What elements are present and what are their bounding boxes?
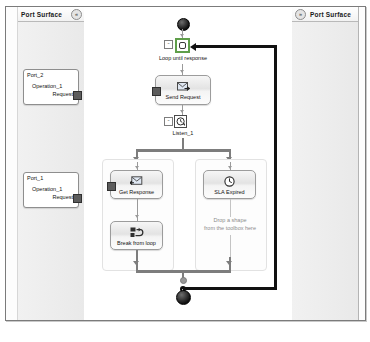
left-port-surface-title: Port Surface bbox=[21, 11, 62, 18]
port-name: Port_1 bbox=[27, 175, 75, 182]
port-operation: Operation_1 bbox=[27, 83, 75, 90]
branch-split-bar bbox=[136, 149, 231, 152]
placeholder-line-2: from the toolbox here bbox=[190, 224, 270, 232]
loop-expander-toggle[interactable]: - bbox=[164, 40, 173, 49]
start-terminator-icon bbox=[177, 18, 190, 31]
connector-arrow-icon bbox=[135, 166, 139, 169]
port-connector-handle[interactable] bbox=[73, 194, 82, 203]
port-message: Request bbox=[27, 91, 75, 98]
activity-label: Send Request bbox=[166, 93, 201, 101]
connector-arrow-icon bbox=[180, 70, 184, 73]
break-loop-icon bbox=[130, 226, 144, 239]
activity-connector-handle[interactable] bbox=[107, 182, 116, 191]
activity-break-from-loop[interactable]: Break from loop bbox=[110, 221, 163, 250]
right-port-surface-body[interactable] bbox=[292, 22, 358, 320]
receive-message-icon bbox=[130, 175, 143, 188]
listen-shape[interactable] bbox=[174, 115, 187, 128]
connector-sla-to-placeholder bbox=[230, 199, 231, 217]
workflow-canvas[interactable]: - Loop until response Send Request - bbox=[84, 7, 292, 320]
loopback-line-top bbox=[196, 45, 277, 48]
loop-icon bbox=[179, 42, 186, 49]
activity-sla-expired[interactable]: SLA Expired bbox=[203, 170, 256, 199]
connector-arrow-icon bbox=[226, 261, 232, 265]
right-port-surface-header: » Port Surface bbox=[292, 7, 358, 22]
loopback-line-bottom bbox=[183, 287, 277, 290]
drop-shape-placeholder[interactable]: Drop a shape from the toolbox here bbox=[190, 216, 270, 232]
placeholder-line-1: Drop a shape bbox=[190, 216, 270, 224]
left-port-surface-header: Port Surface « bbox=[18, 7, 85, 22]
listen-clock-icon bbox=[176, 117, 186, 127]
chevron-double-right-icon[interactable]: » bbox=[295, 9, 306, 20]
clock-icon bbox=[224, 175, 235, 188]
loopback-arrow-icon bbox=[190, 43, 196, 51]
loop-shape[interactable] bbox=[175, 38, 190, 53]
activity-send-request[interactable]: Send Request bbox=[155, 75, 211, 105]
connector-arrow-icon bbox=[180, 110, 184, 113]
activity-label: Get Response bbox=[119, 188, 154, 196]
listen-expander-toggle[interactable]: - bbox=[164, 117, 173, 126]
port-name: Port_2 bbox=[27, 72, 75, 79]
connector-arrow-icon bbox=[228, 166, 232, 169]
activity-connector-handle[interactable] bbox=[152, 87, 161, 96]
chevron-double-left-icon[interactable]: « bbox=[71, 9, 82, 20]
loop-shape-label: Loop until response bbox=[142, 55, 224, 62]
port-shape-port-2[interactable]: Port_2 Operation_1 Request bbox=[23, 69, 79, 105]
send-message-icon bbox=[177, 80, 190, 93]
activity-get-response[interactable]: Get Response bbox=[110, 170, 163, 199]
left-port-surface-body[interactable]: Port_2 Operation_1 Request Port_1 Operat… bbox=[18, 22, 85, 320]
connector-arrow-icon bbox=[180, 34, 184, 37]
port-shape-port-1[interactable]: Port_1 Operation_1 Request bbox=[23, 172, 79, 208]
right-port-surface-title: Port Surface bbox=[310, 11, 351, 18]
connector-arrow-icon bbox=[135, 215, 139, 218]
activity-label: SLA Expired bbox=[214, 188, 244, 196]
connector-midpoint-handle[interactable] bbox=[180, 277, 187, 284]
activity-label: Break from loop bbox=[117, 239, 156, 247]
port-message: Request bbox=[27, 194, 75, 201]
loopback-line-right bbox=[274, 45, 277, 290]
port-operation: Operation_1 bbox=[27, 186, 75, 193]
connector-arrow-icon bbox=[133, 261, 139, 265]
orchestration-designer-canvas[interactable]: Port Surface « Port_2 Operation_1 Reques… bbox=[5, 6, 366, 321]
right-port-surface[interactable]: » Port Surface bbox=[291, 7, 359, 320]
end-terminator-icon bbox=[176, 290, 191, 305]
port-connector-handle[interactable] bbox=[73, 91, 82, 100]
listen-shape-label: Listen_1 bbox=[152, 130, 214, 137]
left-port-surface[interactable]: Port Surface « Port_2 Operation_1 Reques… bbox=[17, 7, 86, 320]
